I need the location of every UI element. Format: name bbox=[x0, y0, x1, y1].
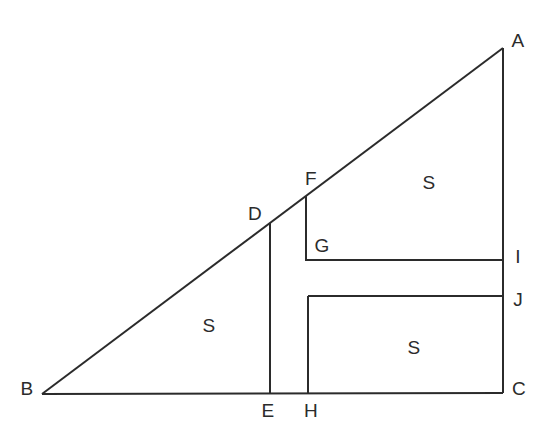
geometry-figure: A B C D E F G H I J S S S bbox=[0, 0, 550, 435]
vertex-label-J: J bbox=[513, 290, 523, 309]
vertex-label-A: A bbox=[512, 31, 525, 50]
vertex-label-I: I bbox=[515, 247, 520, 266]
vertex-label-G: G bbox=[315, 236, 330, 255]
region-label-square-left: S bbox=[203, 316, 216, 335]
vertex-label-E: E bbox=[262, 401, 275, 420]
vertex-label-C: C bbox=[512, 379, 526, 398]
segments-group bbox=[42, 48, 503, 394]
vertex-label-H: H bbox=[304, 401, 318, 420]
vertex-label-B: B bbox=[21, 379, 34, 398]
vertex-label-F: F bbox=[305, 169, 317, 188]
region-label-square-lower-right: S bbox=[408, 338, 421, 357]
geometry-canvas bbox=[0, 0, 550, 435]
region-label-square-upper-right: S bbox=[423, 173, 436, 192]
vertex-label-D: D bbox=[248, 204, 262, 223]
base-b-to-c bbox=[42, 393, 503, 394]
hypotenuse-b-to-a bbox=[42, 48, 503, 394]
